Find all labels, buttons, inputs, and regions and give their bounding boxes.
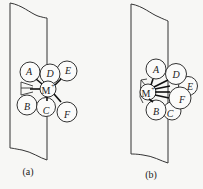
atom-label-C: C (167, 108, 174, 119)
atom-label-F: F (63, 109, 71, 120)
diagram-canvas: A D E B C F M + (a) A D E F B C M + (0, 0, 203, 189)
panel-b: A D E F B C M + (b) (131, 4, 198, 181)
atom-label-C: C (43, 105, 50, 116)
atom-label-A: A (25, 66, 33, 77)
caption-b: (b) (145, 169, 157, 181)
atom-label-B: B (153, 106, 159, 117)
panel-a: A D E B C F M + (a) (10, 3, 77, 178)
bond-M-F (54, 94, 61, 102)
ion-label-M: M (42, 85, 51, 96)
ion-label-M: M (142, 88, 151, 99)
atom-label-E: E (186, 81, 193, 92)
bond-M-D (154, 80, 168, 87)
atom-label-F: F (178, 94, 186, 105)
atom-label-D: D (171, 69, 180, 80)
bond-M-A (36, 79, 42, 84)
atom-label-B: B (24, 101, 30, 112)
atom-label-D: D (45, 68, 54, 79)
bond-M-A (151, 79, 153, 85)
atom-label-E: E (64, 65, 71, 76)
atom-label-A: A (152, 64, 160, 75)
bond-M-F-3 (155, 95, 169, 98)
caption-a: (a) (22, 166, 33, 178)
